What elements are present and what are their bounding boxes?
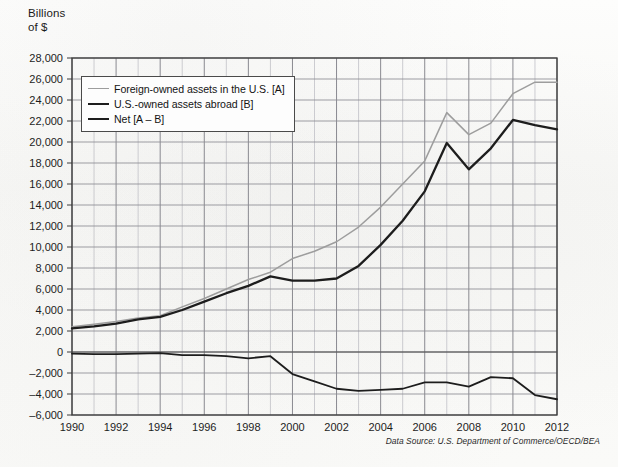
x-axis-tick-label: 2010: [501, 421, 525, 433]
x-axis-tick-label: 1998: [236, 421, 260, 433]
x-axis-tick-label: 1996: [192, 421, 216, 433]
y-axis-tick-label: 28,000: [29, 52, 63, 64]
y-axis-tick-label: –2,000: [29, 367, 63, 379]
x-axis-tick-label: 2000: [280, 421, 304, 433]
legend-swatch-a-icon: [88, 88, 109, 89]
chart-legend: Foreign-owned assets in the U.S. [A] U.S…: [81, 76, 295, 132]
x-axis-tick-label: 1994: [148, 421, 172, 433]
y-axis-tick-label: 18,000: [29, 157, 63, 169]
y-axis-tick-label: 6,000: [35, 283, 63, 295]
y-axis-tick-label: 10,000: [29, 241, 63, 253]
x-axis-tick-label: 2008: [457, 421, 481, 433]
x-axis-tick-label: 1992: [104, 421, 128, 433]
y-axis-tick-label: 8,000: [35, 262, 63, 274]
data-source-note: Data Source: U.S. Department of Commerce…: [386, 436, 600, 446]
x-axis-tick-label: 2006: [412, 421, 436, 433]
legend-item-net: Net [A – B]: [88, 111, 287, 126]
x-axis-tick-label: 2004: [368, 421, 392, 433]
y-axis-tick-label: 24,000: [29, 94, 63, 106]
legend-label-a: Foreign-owned assets in the U.S. [A]: [114, 83, 285, 95]
y-axis-tick-label: 20,000: [29, 136, 63, 148]
y-axis-tick-label: 26,000: [29, 73, 63, 85]
legend-swatch-net-icon: [88, 118, 109, 120]
x-axis-tick-label: 2012: [545, 421, 569, 433]
y-axis-tick-label: 0: [57, 346, 63, 358]
x-axis-tick-label: 1990: [60, 421, 84, 433]
y-axis-tick-label: –4,000: [29, 388, 63, 400]
y-axis-tick-label: 16,000: [29, 178, 63, 190]
legend-label-net: Net [A – B]: [114, 113, 164, 125]
y-axis-tick-label: 14,000: [29, 199, 63, 211]
y-axis-tick-label: 4,000: [35, 304, 63, 316]
line-chart: 28,00026,00024,00022,00020,00018,00016,0…: [0, 0, 618, 467]
y-axis-tick-label: 22,000: [29, 115, 63, 127]
y-axis-tick-label: 12,000: [29, 220, 63, 232]
legend-label-b: U.S.-owned assets abroad [B]: [114, 98, 253, 110]
legend-item-a: Foreign-owned assets in the U.S. [A]: [88, 81, 287, 96]
y-axis-tick-label: –6,000: [29, 409, 63, 421]
y-axis-tick-label: 2,000: [35, 325, 63, 337]
x-axis-tick-label: 2002: [324, 421, 348, 433]
legend-swatch-b-icon: [88, 103, 109, 105]
legend-item-b: U.S.-owned assets abroad [B]: [88, 96, 287, 111]
